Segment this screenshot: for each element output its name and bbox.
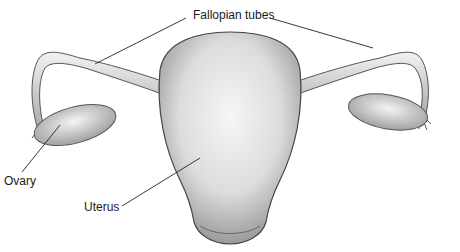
- label-ovary: Ovary: [4, 174, 36, 188]
- uterus-illustration: [0, 0, 460, 252]
- right-ovary: [346, 88, 431, 135]
- anatomy-diagram: Fallopian tubes Ovary Uterus: [0, 0, 460, 252]
- left-ovary: [30, 97, 120, 154]
- leader-line-fallopian-right: [270, 18, 373, 48]
- label-uterus: Uterus: [84, 200, 119, 214]
- label-fallopian-tubes: Fallopian tubes: [193, 8, 274, 22]
- uterus-body: [159, 32, 301, 244]
